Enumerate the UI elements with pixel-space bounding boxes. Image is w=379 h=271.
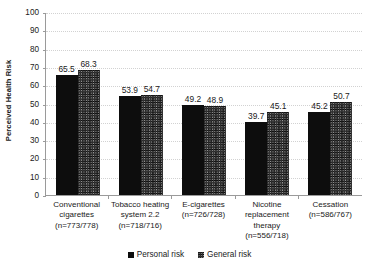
x-axis-group-separator <box>108 195 109 199</box>
y-axis-tick-label: 100 <box>25 9 39 17</box>
bar-general[interactable]: 45.1 <box>267 112 289 195</box>
x-axis-label: Conventional cigarettes (n=773/778) <box>45 200 108 242</box>
legend-item[interactable]: Personal risk <box>128 250 184 259</box>
x-axis-group-separator <box>298 195 299 199</box>
bar-general[interactable]: 54.7 <box>141 95 163 195</box>
bar-value-label: 50.7 <box>333 92 349 101</box>
x-axis-label: Cessation (n=586/767) <box>299 200 362 242</box>
y-axis-title-text: Perceived Health Risk <box>5 59 14 140</box>
bar-value-label: 54.7 <box>144 85 160 94</box>
bar-personal[interactable]: 49.2 <box>182 105 204 195</box>
bar-chart: Perceived Health Risk 100908070605040302… <box>0 0 379 271</box>
y-axis-tick-label: 30 <box>30 137 39 145</box>
chart-legend: Personal riskGeneral risk <box>0 250 379 259</box>
y-axis-tick-label: 0 <box>34 192 39 200</box>
x-axis-category-labels: Conventional cigarettes (n=773/778)Tobac… <box>45 200 362 242</box>
legend-swatch-general-icon <box>198 252 204 258</box>
bar-value-label: 65.5 <box>58 65 74 74</box>
bar-groups: 65.568.353.954.749.248.939.745.145.250.7 <box>46 13 362 195</box>
bar-general[interactable]: 68.3 <box>78 70 100 195</box>
bar-value-label: 45.1 <box>270 102 286 111</box>
bar-personal[interactable]: 53.9 <box>119 96 141 195</box>
bar-personal[interactable]: 45.2 <box>308 112 330 195</box>
y-axis-tick-label: 70 <box>30 64 39 72</box>
bar-value-label: 49.2 <box>185 95 201 104</box>
y-axis-tick-label: 50 <box>30 100 39 108</box>
y-axis-tick-label: 20 <box>30 155 39 163</box>
bar-group: 39.745.1 <box>236 13 299 195</box>
x-axis-group-separator <box>235 195 236 199</box>
x-axis-label: Nicotine replacement therapy (n=556/718) <box>235 200 298 242</box>
y-axis-tick-label: 90 <box>30 27 39 35</box>
legend-label: General risk <box>207 250 251 259</box>
bar-personal[interactable]: 39.7 <box>245 122 267 195</box>
bar-group: 45.250.7 <box>299 13 362 195</box>
bar-general[interactable]: 48.9 <box>204 106 226 195</box>
bar-value-label: 48.9 <box>207 96 223 105</box>
legend-swatch-personal-icon <box>128 252 134 258</box>
legend-item[interactable]: General risk <box>198 250 251 259</box>
x-axis-label: E-cigarettes (n=726/728) <box>172 200 235 242</box>
y-axis-title: Perceived Health Risk <box>2 0 16 200</box>
y-axis-tick-label: 80 <box>30 45 39 53</box>
x-axis-group-separator <box>171 195 172 199</box>
y-axis-tickmark <box>43 196 46 197</box>
bar-general[interactable]: 50.7 <box>330 102 352 195</box>
bar-value-label: 53.9 <box>122 86 138 95</box>
bar-personal[interactable]: 65.5 <box>56 75 78 195</box>
legend-label: Personal risk <box>137 250 184 259</box>
y-axis-tick-label: 10 <box>30 174 39 182</box>
bar-group: 65.568.3 <box>46 13 109 195</box>
bar-group: 49.248.9 <box>172 13 235 195</box>
bar-value-label: 39.7 <box>248 112 264 121</box>
y-axis-tick-labels: 1009080706050403020100 <box>16 0 42 205</box>
y-axis-tick-label: 60 <box>30 82 39 90</box>
y-axis-tick-label: 40 <box>30 119 39 127</box>
bar-value-label: 45.2 <box>311 102 327 111</box>
plot-area: 65.568.353.954.749.248.939.745.145.250.7 <box>45 13 362 196</box>
x-axis-label: Tobacco heating system 2.2 (n=718/716) <box>108 200 171 242</box>
bar-group: 53.954.7 <box>109 13 172 195</box>
bar-value-label: 68.3 <box>80 60 96 69</box>
